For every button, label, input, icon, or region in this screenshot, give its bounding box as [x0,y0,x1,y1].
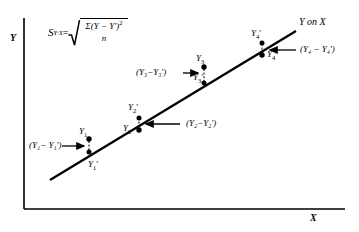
regression-diagram: SY·X= Σ(Y − Y′)2 n Y X Y on X Y1 Y2 Y3 Y… [0,0,359,232]
formula-statistic-subscript: Y·X [54,29,63,36]
regression-line-label: Y on X [299,17,326,27]
x-axis-label: X [310,213,317,223]
residual-annotation-1: (Y₁− Y₁′) [29,141,62,150]
observed-point-4 [259,52,264,57]
prime-mark-3: ′ [201,72,203,82]
predicted-label-2: Y2′ [128,103,138,114]
prime-mark-1: ′ [96,159,98,169]
residual-annotation-3: (Y₃−Y₃′) [136,68,166,77]
regression-line [50,31,296,180]
observed-label-2: Y2 [123,124,131,135]
standard-error-formula: SY·X= Σ(Y − Y′)2 n [48,18,128,46]
residual-annotation-2: (Y₂−Y₂′) [186,119,216,128]
predicted-label-3: Y3′ [193,73,203,84]
observed-label-3: Y3 [196,54,204,65]
predicted-label-1: Y1′ [88,160,98,171]
predicted-point-4 [260,41,265,46]
observed-point-2 [136,127,141,132]
predicted-point-1 [87,150,92,155]
prime-mark-4: ′ [259,28,261,38]
fraction-denominator: n [100,32,109,43]
y-axis-label: Y [10,33,16,43]
numerator-exponent: 2 [119,19,122,26]
observed-label-4: Y4 [267,50,275,61]
fraction: Σ(Y − Y′)2 n [80,18,127,46]
predicted-point-2 [137,116,142,121]
radical-sign-icon [68,18,81,46]
radical-group: Σ(Y − Y′)2 n [68,18,127,46]
prime-mark-2: ′ [136,102,138,112]
fraction-numerator: Σ(Y − Y′)2 [83,19,124,32]
residual-annotation-4: (Y₄ − Y₄′) [300,45,335,54]
observed-label-1: Y1 [79,127,87,138]
predicted-label-4: Y4′ [251,29,261,40]
